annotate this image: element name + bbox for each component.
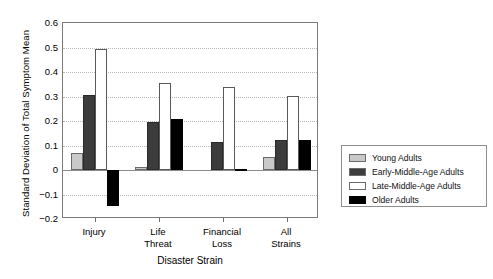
y-tick-label: 0 [24, 164, 58, 175]
y-tick-label: 0.1 [24, 139, 58, 150]
gridline [63, 195, 317, 196]
legend-item: Older Adults [349, 193, 486, 206]
x-tick-mark [95, 217, 96, 222]
legend-swatch [349, 154, 366, 162]
x-tick-label: All Strains [271, 226, 301, 249]
bar [71, 153, 83, 170]
legend-item: Late-Middle-Age Adults [349, 179, 486, 192]
x-tick-label: Injury [82, 226, 105, 238]
plot-area [62, 22, 318, 218]
y-tick-label: −0.1 [24, 188, 58, 199]
legend-swatch [349, 168, 366, 176]
legend-label: Early-Middle-Age Adults [372, 167, 464, 177]
bar [107, 170, 119, 206]
legend-item: Young Adults [349, 151, 486, 164]
legend: Young AdultsEarly-Middle-Age AdultsLate-… [341, 145, 487, 207]
x-axis-tick-labels: InjuryLife ThreatFinancial LossAll Strai… [0, 226, 493, 256]
x-axis-title: Disaster Strain [62, 255, 318, 266]
bar [159, 83, 171, 170]
bar-chart-figure: Standard Deviation of Total Symptom Mean… [0, 0, 493, 279]
y-tick-label: 0.6 [24, 17, 58, 28]
y-tick-label: 0.4 [24, 66, 58, 77]
legend-swatch [349, 196, 366, 204]
bar [287, 96, 299, 170]
bar [211, 142, 223, 170]
legend-label: Young Adults [372, 153, 422, 163]
x-tick-mark [223, 217, 224, 222]
bar [171, 119, 183, 170]
x-tick-mark [287, 217, 288, 222]
bar [95, 49, 107, 170]
legend-label: Older Adults [372, 195, 419, 205]
bar [275, 140, 287, 170]
y-tick-label: 0.2 [24, 115, 58, 126]
bar [299, 140, 311, 170]
legend-swatch [349, 182, 366, 190]
zero-baseline [63, 170, 317, 171]
bar [235, 169, 247, 171]
x-tick-label: Life Threat [144, 226, 171, 249]
y-tick-label: 0.5 [24, 41, 58, 52]
bar [147, 122, 159, 170]
bar [83, 95, 95, 170]
legend-label: Late-Middle-Age Adults [372, 181, 461, 191]
bar [135, 167, 147, 170]
bar [223, 87, 235, 170]
y-tick-label: −0.2 [24, 213, 58, 224]
bar [263, 157, 275, 170]
x-tick-label: Financial Loss [203, 226, 241, 249]
x-tick-mark [159, 217, 160, 222]
y-tick-label: 0.3 [24, 90, 58, 101]
legend-item: Early-Middle-Age Adults [349, 165, 486, 178]
